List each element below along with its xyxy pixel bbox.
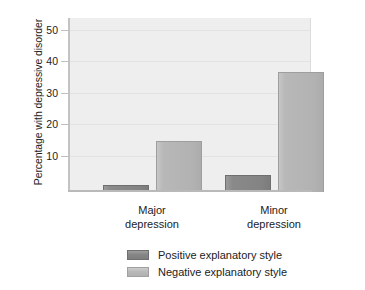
- gridline-20: [70, 124, 310, 125]
- category-minor-line2: depression: [214, 217, 334, 231]
- tick-mark-10: [61, 156, 68, 157]
- category-major-line1: Major: [138, 204, 166, 216]
- gridline-30: [70, 93, 310, 94]
- y-tick-label-40: 40: [32, 56, 58, 66]
- tick-mark-50: [61, 30, 68, 31]
- x-category-label-major-depression: Major depression: [92, 203, 212, 231]
- y-tick-label-10: 10: [32, 151, 58, 161]
- tick-mark-40: [61, 61, 68, 62]
- gridline-40: [70, 61, 310, 62]
- bar-minor-depression-negative[interactable]: [278, 72, 324, 192]
- gridline-50: [70, 30, 310, 31]
- legend-swatch-positive-icon: [127, 250, 149, 260]
- legend-item-positive[interactable]: Positive explanatory style: [0, 246, 365, 263]
- legend-label-negative: Negative explanatory style: [158, 266, 287, 278]
- tick-mark-20: [61, 124, 68, 125]
- bar-major-depression-negative[interactable]: [156, 141, 202, 192]
- y-tick-label-30: 30: [32, 88, 58, 98]
- plot-area: [68, 18, 311, 192]
- legend-label-positive: Positive explanatory style: [158, 249, 282, 261]
- tick-mark-30: [61, 93, 68, 94]
- y-tick-label-20: 20: [32, 119, 58, 129]
- bar-chart-figure: Percentage with depressive disorder 10 2…: [0, 0, 365, 290]
- legend-item-negative[interactable]: Negative explanatory style: [0, 263, 365, 280]
- legend-swatch-negative-icon: [127, 267, 149, 277]
- category-minor-line1: Minor: [260, 204, 288, 216]
- category-major-line2: depression: [92, 217, 212, 231]
- x-category-label-minor-depression: Minor depression: [214, 203, 334, 231]
- chart-legend: Positive explanatory style Negative expl…: [0, 246, 365, 280]
- y-tick-label-50: 50: [32, 25, 58, 35]
- x-axis-baseline: [68, 190, 312, 192]
